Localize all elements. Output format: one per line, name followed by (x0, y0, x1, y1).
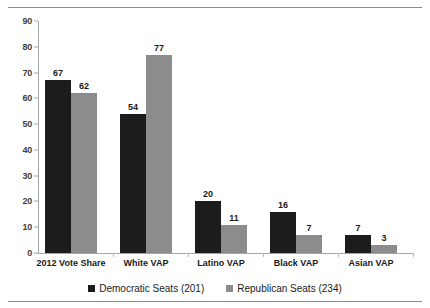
x-axis-category-label: 2012 Vote Share (37, 258, 106, 268)
x-axis-category-label: Latino VAP (197, 258, 244, 268)
x-axis-tick-mark (188, 253, 189, 257)
bar[interactable]: 3 (371, 245, 397, 253)
bar-group: 5477White VAP (120, 21, 172, 253)
bar[interactable]: 54 (120, 114, 146, 253)
x-axis-category-label: White VAP (124, 258, 169, 268)
bar[interactable]: 7 (345, 235, 371, 253)
chart-figure: 010203040506070809067622012 Vote Share54… (0, 0, 430, 308)
chart-legend: Democratic Seats (201)Republican Seats (… (0, 283, 430, 294)
y-axis-tick-mark (34, 201, 38, 202)
plot-area: 010203040506070809067622012 Vote Share54… (38, 21, 413, 253)
y-axis-tick-mark (34, 72, 38, 73)
x-axis-tick-mark (263, 253, 264, 257)
bar[interactable]: 20 (195, 201, 221, 253)
bar-value-label: 7 (306, 224, 311, 233)
legend-item[interactable]: Democratic Seats (201) (88, 283, 204, 294)
bar[interactable]: 16 (270, 212, 296, 253)
legend-item-label: Democratic Seats (201) (99, 283, 204, 294)
square-marker (88, 285, 95, 292)
x-axis-line (38, 253, 413, 254)
bar-group: 2011Latino VAP (195, 21, 247, 253)
bar-value-label: 20 (203, 190, 213, 199)
square-marker (226, 285, 233, 292)
bar[interactable]: 11 (221, 225, 247, 253)
y-axis-tick-mark (34, 227, 38, 228)
bar-value-label: 62 (79, 82, 89, 91)
bar-group: 67622012 Vote Share (45, 21, 97, 253)
bar[interactable]: 62 (71, 93, 97, 253)
legend-item-label: Republican Seats (234) (237, 283, 342, 294)
top-divider-rule (8, 7, 422, 8)
y-axis-tick-mark (34, 21, 38, 22)
y-axis-tick-mark (34, 175, 38, 176)
bar[interactable]: 7 (296, 235, 322, 253)
bar-group: 73Asian VAP (345, 21, 397, 253)
bar-value-label: 67 (53, 69, 63, 78)
bar-value-label: 16 (278, 201, 288, 210)
bar-value-label: 54 (128, 103, 138, 112)
y-axis-tick-mark (34, 46, 38, 47)
bottom-divider-rule (8, 301, 422, 302)
y-axis-tick-mark (34, 253, 38, 254)
y-axis-tick-mark (34, 149, 38, 150)
x-axis-category-label: Black VAP (274, 258, 318, 268)
legend-item[interactable]: Republican Seats (234) (226, 283, 342, 294)
bar-value-label: 3 (381, 234, 386, 243)
bar-group: 167Black VAP (270, 21, 322, 253)
bar[interactable]: 67 (45, 80, 71, 253)
x-axis-tick-mark (113, 253, 114, 257)
bar-value-label: 11 (229, 214, 239, 223)
bar[interactable]: 77 (146, 55, 172, 253)
bar-value-label: 7 (355, 224, 360, 233)
y-axis-tick-mark (34, 98, 38, 99)
x-axis-tick-mark (338, 253, 339, 257)
bar-value-label: 77 (154, 44, 164, 53)
y-axis-tick-mark (34, 124, 38, 125)
x-axis-tick-mark (413, 253, 414, 257)
x-axis-category-label: Asian VAP (349, 258, 394, 268)
